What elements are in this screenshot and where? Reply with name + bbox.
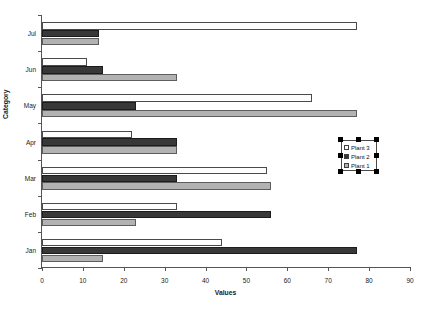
bar-plant-2[interactable] — [42, 102, 136, 109]
bar-plant-3[interactable] — [42, 203, 177, 210]
bar-plant-1[interactable] — [42, 146, 177, 153]
y-axis-tick-label: Apr — [26, 138, 36, 145]
selection-handle-middle-right[interactable] — [374, 153, 379, 158]
x-axis-tick-label: 40 — [202, 277, 209, 284]
legend-swatch-icon-plant-2 — [344, 154, 349, 159]
legend-item-plant-3[interactable]: Plant 3 — [344, 143, 374, 152]
bar-chart: 0102030405060708090JulJunMayAprMarFebJan… — [0, 0, 442, 309]
selection-handle-top-left[interactable] — [338, 137, 343, 142]
bar-plant-3[interactable] — [42, 167, 267, 174]
bar-plant-2[interactable] — [42, 30, 99, 37]
y-axis-tick — [38, 123, 42, 124]
bar-group — [42, 87, 410, 123]
chart-legend[interactable]: Plant 3 Plant 2 Plant 1 — [337, 136, 381, 175]
x-axis-tick-label: 50 — [243, 277, 250, 284]
x-axis-tick — [410, 267, 411, 271]
bar-plant-1[interactable] — [42, 110, 357, 117]
bar-plant-3[interactable] — [42, 131, 132, 138]
y-axis-tick — [38, 87, 42, 88]
y-axis-tick-label: Jan — [26, 246, 36, 253]
y-axis-tick — [38, 196, 42, 197]
bar-plant-3[interactable] — [42, 58, 87, 65]
y-axis-tick — [38, 232, 42, 233]
bar-plant-3[interactable] — [42, 94, 312, 101]
bar-plant-2[interactable] — [42, 247, 357, 254]
x-axis-tick-label: 60 — [284, 277, 291, 284]
y-axis-title: Category — [2, 90, 9, 119]
x-axis-tick-label: 30 — [161, 277, 168, 284]
legend-box[interactable]: Plant 3 Plant 2 Plant 1 — [341, 140, 377, 171]
y-axis-tick — [38, 51, 42, 52]
selection-handle-top-center[interactable] — [356, 137, 361, 142]
bar-plant-1[interactable] — [42, 182, 271, 189]
x-axis-tick-label: 0 — [40, 277, 44, 284]
y-axis-tick-label: May — [24, 102, 36, 109]
selection-handle-bottom-center[interactable] — [356, 169, 361, 174]
x-axis-tick-label: 20 — [120, 277, 127, 284]
bar-plant-1[interactable] — [42, 74, 177, 81]
y-axis-tick — [38, 15, 42, 16]
legend-item-plant-2[interactable]: Plant 2 — [344, 152, 374, 161]
bar-plant-2[interactable] — [42, 175, 177, 182]
bar-plant-1[interactable] — [42, 219, 136, 226]
bar-plant-3[interactable] — [42, 239, 222, 246]
y-axis-tick-label: Feb — [25, 210, 36, 217]
bar-group — [42, 196, 410, 232]
x-axis-tick-label: 10 — [79, 277, 86, 284]
x-axis-tick-label: 80 — [365, 277, 372, 284]
legend-swatch-icon-plant-3 — [344, 145, 349, 150]
bar-group — [42, 15, 410, 51]
selection-handle-middle-left[interactable] — [338, 153, 343, 158]
bar-plant-1[interactable] — [42, 38, 99, 45]
x-axis-title: Values — [41, 289, 410, 296]
bar-plant-2[interactable] — [42, 211, 271, 218]
y-axis-tick-label: Jun — [26, 66, 36, 73]
legend-label-plant-3: Plant 3 — [351, 145, 370, 151]
y-axis-tick-label: Mar — [25, 174, 36, 181]
bar-plant-1[interactable] — [42, 255, 103, 262]
x-axis-tick-label: 90 — [406, 277, 413, 284]
y-axis-tick — [38, 160, 42, 161]
legend-label-plant-1: Plant 1 — [351, 163, 370, 169]
bar-plant-3[interactable] — [42, 22, 357, 29]
bar-group — [42, 51, 410, 87]
y-axis-tick — [38, 268, 42, 269]
y-axis-tick-label: Jul — [28, 30, 36, 37]
bar-plant-2[interactable] — [42, 66, 103, 73]
selection-handle-bottom-left[interactable] — [338, 169, 343, 174]
bar-group — [42, 232, 410, 268]
bar-plant-2[interactable] — [42, 138, 177, 145]
legend-swatch-icon-plant-1 — [344, 163, 349, 168]
selection-handle-bottom-right[interactable] — [374, 169, 379, 174]
x-axis-tick-label: 70 — [325, 277, 332, 284]
selection-handle-top-right[interactable] — [374, 137, 379, 142]
legend-label-plant-2: Plant 2 — [351, 154, 370, 160]
